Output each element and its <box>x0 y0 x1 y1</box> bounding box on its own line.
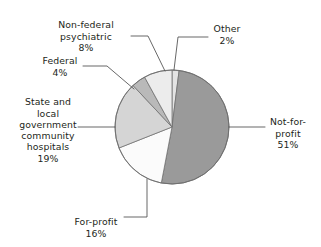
pie-label-for-profit-text: For-profit <box>75 216 118 227</box>
pie-label-other-percent: 2% <box>196 35 258 46</box>
pie-label-federal-percent: 4% <box>22 67 98 78</box>
pie-label-not-for-profit: Not-for- profit 51% <box>258 105 318 161</box>
pie-label-state-and-local: State and local government community hos… <box>4 85 92 175</box>
pie-label-non-federal-psychiatric-text: Non-federal psychiatric <box>58 19 114 41</box>
pie-chart-figure: Non-federal psychiatric 8% Other 2% Fede… <box>0 0 321 247</box>
pie-label-state-and-local-percent: 19% <box>4 153 92 164</box>
pie-label-other: Other 2% <box>196 12 258 57</box>
pie-label-not-for-profit-text: Not-for- profit <box>270 116 306 138</box>
leader-line-non-federal-psychiatric <box>131 36 165 71</box>
pie-label-for-profit-percent: 16% <box>58 228 134 239</box>
pie-label-not-for-profit-percent: 51% <box>258 139 318 150</box>
pie-label-for-profit: For-profit 16% <box>58 205 134 247</box>
pie-label-other-text: Other <box>214 23 241 34</box>
pie-label-state-and-local-text: State and local government community hos… <box>19 96 77 152</box>
pie-label-federal: Federal 4% <box>22 44 98 89</box>
pie-label-federal-text: Federal <box>43 55 78 66</box>
